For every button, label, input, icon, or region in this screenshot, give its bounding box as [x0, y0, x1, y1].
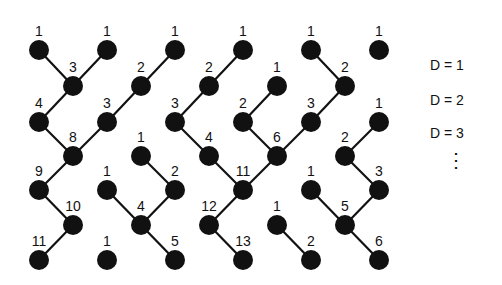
tree-node: [29, 40, 49, 60]
tree-node: [97, 250, 117, 270]
node-label: 3: [307, 95, 315, 111]
tree-node: [165, 250, 185, 270]
node-label: 2: [239, 95, 247, 111]
tree-node: [233, 112, 253, 132]
node-label: 1: [307, 163, 315, 179]
node-label: 1: [375, 23, 383, 39]
node-label: 6: [273, 129, 281, 145]
tree-node: [63, 215, 83, 235]
tree-node: [165, 112, 185, 132]
node-label: 11: [32, 233, 47, 249]
tree-node: [131, 215, 151, 235]
tree-node: [29, 112, 49, 132]
node-label: 2: [171, 163, 179, 179]
node-label: 2: [307, 233, 315, 249]
node-label: 13: [235, 233, 251, 249]
node-label: 9: [35, 163, 43, 179]
tree-node: [335, 215, 355, 235]
node-label: 1: [103, 23, 111, 39]
tree-node: [369, 250, 389, 270]
tree-node: [301, 112, 321, 132]
node-label: 1: [35, 23, 43, 39]
node-label: 4: [205, 129, 213, 145]
node-label: 1: [103, 163, 111, 179]
node-label: 10: [65, 198, 81, 214]
tree-node: [267, 76, 287, 96]
tree-node: [199, 215, 219, 235]
node-label: 5: [171, 233, 179, 249]
tree-node: [199, 146, 219, 166]
tree-node: [131, 76, 151, 96]
tree-node: [97, 180, 117, 200]
tree-node: [97, 112, 117, 132]
tree-node: [301, 250, 321, 270]
node-label: 12: [201, 198, 217, 214]
legend-d2: D = 2: [430, 92, 464, 108]
tree-node: [199, 76, 219, 96]
legend-ellipsis: ⋮: [446, 150, 466, 170]
tree-node: [301, 40, 321, 60]
node-label: 2: [341, 129, 349, 145]
node-label: 2: [137, 59, 145, 75]
node-label: 3: [69, 59, 77, 75]
tree-node: [131, 146, 151, 166]
legend-d3: D = 3: [430, 125, 464, 141]
tree-node: [267, 215, 287, 235]
tree-node: [165, 180, 185, 200]
node-label: 2: [205, 59, 213, 75]
node-label: 1: [273, 198, 281, 214]
node-label: 3: [171, 95, 179, 111]
node-label: 8: [69, 129, 77, 145]
tree-node: [29, 250, 49, 270]
tree-node: [233, 250, 253, 270]
node-label: 3: [375, 163, 383, 179]
tree-node: [63, 146, 83, 166]
tree-node: [233, 40, 253, 60]
tree-node: [97, 40, 117, 60]
node-label: 1: [307, 23, 315, 39]
node-label: 1: [171, 23, 179, 39]
node-label: 4: [137, 198, 145, 214]
tree-node: [369, 40, 389, 60]
node-label: 5: [341, 198, 349, 214]
node-label: 4: [35, 95, 43, 111]
tree-node: [165, 40, 185, 60]
tree-node: [301, 180, 321, 200]
node-label: 1: [103, 233, 111, 249]
tree-node: [335, 76, 355, 96]
tree-node: [267, 146, 287, 166]
tree-node: [369, 112, 389, 132]
node-label: 3: [103, 95, 111, 111]
node-label: 1: [239, 23, 247, 39]
node-label: 1: [375, 95, 383, 111]
node-label: 2: [341, 59, 349, 75]
node-label: 11: [236, 163, 251, 179]
tree-node: [29, 180, 49, 200]
node-label: 1: [137, 129, 145, 145]
node-label: 1: [273, 59, 281, 75]
tree-diagram: 1111113221243323181462912111310412151115…: [0, 0, 502, 285]
tree-node: [369, 180, 389, 200]
tree-node: [335, 146, 355, 166]
node-label: 6: [375, 233, 383, 249]
tree-node: [233, 180, 253, 200]
tree-node: [63, 76, 83, 96]
legend-d1: D = 1: [430, 57, 464, 73]
